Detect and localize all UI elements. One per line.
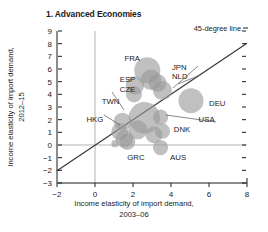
y-axis-title-line2: 2012–15 (17, 92, 26, 122)
point-label-esp: ESP (120, 75, 136, 84)
point-label-usa: USA (199, 115, 216, 124)
point-label-twn: TWN (102, 97, 120, 106)
y-tick-label-5: 5 (48, 78, 53, 87)
y-tick-label-6: 6 (48, 65, 53, 74)
scatter-plot: −3−2−10123456789 −202468 FRAESPCZEJPNNLD… (0, 0, 268, 232)
x-tick-label-4: 4 (169, 190, 174, 199)
y-axis-ticks-right (242, 31, 246, 183)
x-tick-label--2: −2 (52, 190, 62, 199)
y-tick-label-4: 4 (48, 90, 53, 99)
y-tick-label-7: 7 (48, 52, 53, 61)
x-axis-title-line1: Income elasticity of import demand, (74, 199, 193, 208)
y-tick-label-8: 8 (48, 40, 53, 49)
point-label-cze: CZE (120, 85, 136, 94)
y-axis-ticks: −3−2−10123456789 (43, 27, 62, 188)
bubble (111, 140, 118, 147)
point-label-dnk: DNK (174, 125, 191, 134)
y-tick-label-3: 3 (48, 103, 53, 112)
legend-45-degree: 45-degree line (194, 24, 248, 33)
chart-figure: 1. Advanced Economies −3−2−10123456789 −… (0, 0, 268, 232)
bubble-deu (178, 88, 203, 113)
x-axis-title-line2: 2003–06 (119, 210, 149, 219)
point-label-jpn: JPN (172, 63, 187, 72)
point-label-nld: NLD (172, 72, 188, 81)
y-tick-label-0: 0 (48, 141, 53, 150)
point-label-aus: AUS (170, 153, 186, 162)
y-tick-label--1: −1 (43, 154, 53, 163)
legend-label: 45-degree line (194, 24, 241, 33)
x-tick-label-6: 6 (207, 190, 212, 199)
y-tick-label--3: −3 (43, 179, 53, 188)
x-tick-label-2: 2 (131, 190, 136, 199)
y-tick-label-9: 9 (48, 27, 53, 36)
point-label-deu: DEU (209, 99, 226, 108)
point-label-fra: FRA (124, 54, 140, 63)
y-tick-label-2: 2 (48, 116, 53, 125)
x-tick-label-8: 8 (245, 190, 250, 199)
bubble (141, 70, 161, 90)
y-tick-label-1: 1 (48, 128, 53, 137)
bubble (145, 126, 162, 143)
y-tick-label--2: −2 (43, 166, 53, 175)
bubble-series (111, 57, 203, 155)
point-label-hkg: HKG (86, 115, 103, 124)
point-label-grc: GRC (127, 153, 145, 162)
y-axis-title-line1: Income elasticity of import demand, (6, 47, 15, 166)
x-tick-label-0: 0 (93, 190, 98, 199)
x-axis-ticks: −202468 (52, 183, 249, 199)
